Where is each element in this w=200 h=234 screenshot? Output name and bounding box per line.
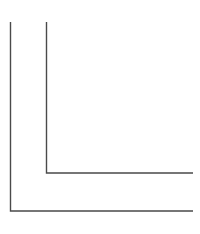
diagram-canvas (0, 0, 200, 234)
inner-l-shape (47, 22, 194, 173)
outer-l-shape (11, 22, 194, 211)
